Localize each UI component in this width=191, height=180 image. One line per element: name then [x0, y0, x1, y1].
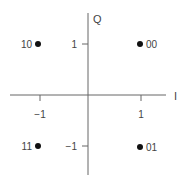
- point-label-01: 01: [146, 142, 158, 153]
- point-01: [137, 144, 143, 150]
- i-tick-label-neg1: −1: [34, 109, 46, 120]
- q-tick-label-pos1: 1: [71, 39, 77, 50]
- point-label-00: 00: [146, 39, 158, 50]
- point-label-10: 10: [21, 39, 33, 50]
- i-tick-label-pos1: 1: [138, 109, 144, 120]
- point-00: [137, 41, 143, 47]
- point-10: [35, 41, 41, 47]
- i-axis-label: I: [174, 90, 177, 102]
- q-axis-label: Q: [93, 13, 102, 25]
- constellation-diagram: Q I −1 1 1 −1 10 00 11 01: [0, 0, 191, 180]
- point-label-11: 11: [22, 141, 33, 152]
- point-11: [35, 143, 41, 149]
- q-tick-label-neg1: −1: [66, 141, 78, 152]
